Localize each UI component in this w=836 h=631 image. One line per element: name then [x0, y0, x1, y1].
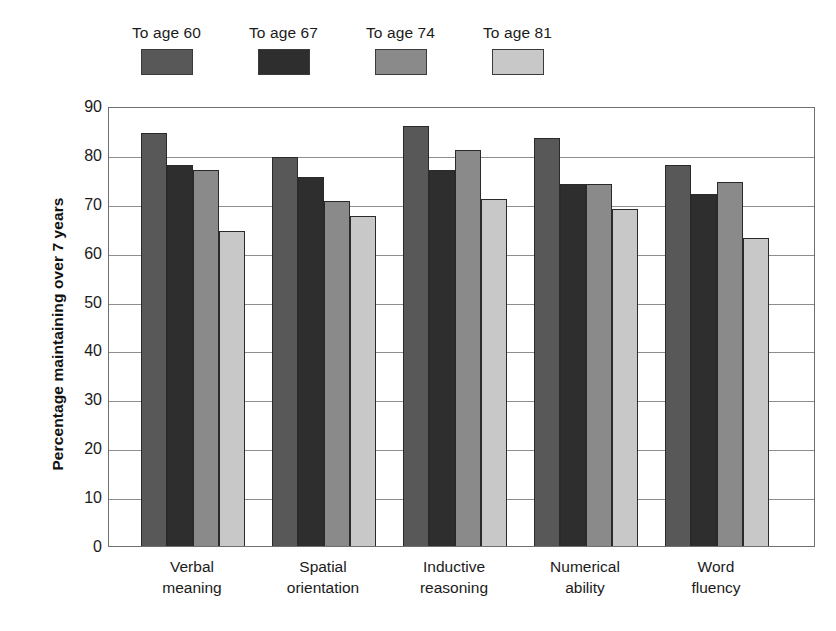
- legend-swatch-to-age-81: [492, 49, 544, 75]
- legend-item-to-age-81: To age 81: [459, 24, 576, 75]
- y-tick-label: 0: [93, 538, 102, 556]
- bar[interactable]: [167, 165, 193, 546]
- legend-label: To age 67: [249, 24, 318, 42]
- bar[interactable]: [141, 133, 167, 546]
- x-tick-label: Numericalability: [550, 556, 620, 598]
- legend-label: To age 60: [132, 24, 201, 42]
- legend-swatch-to-age-67: [258, 49, 310, 75]
- bar[interactable]: [534, 138, 560, 546]
- y-axis-tick-labels: 9080706050403020100: [60, 107, 102, 547]
- legend-item-to-age-67: To age 67: [225, 24, 342, 75]
- legend-item-to-age-60: To age 60: [108, 24, 225, 75]
- bar[interactable]: [429, 170, 455, 546]
- bar[interactable]: [612, 209, 638, 546]
- plot-area: [108, 107, 815, 547]
- bar[interactable]: [193, 170, 219, 546]
- bar[interactable]: [665, 165, 691, 546]
- bar[interactable]: [560, 184, 586, 546]
- y-tick-label: 90: [84, 98, 102, 116]
- bar-group: [272, 108, 376, 546]
- bar[interactable]: [324, 201, 350, 546]
- legend-label: To age 74: [366, 24, 435, 42]
- x-axis-category-labels: VerbalmeaningSpatialorientationInductive…: [108, 556, 815, 616]
- bar[interactable]: [455, 150, 481, 546]
- bar[interactable]: [403, 126, 429, 546]
- x-tick-label: Wordfluency: [691, 556, 740, 598]
- y-tick-label: 50: [84, 294, 102, 312]
- bar[interactable]: [743, 238, 769, 546]
- bar[interactable]: [586, 184, 612, 546]
- bar[interactable]: [717, 182, 743, 546]
- bar-group: [141, 108, 245, 546]
- x-tick-label: Spatialorientation: [287, 556, 359, 598]
- y-tick-label: 40: [84, 342, 102, 360]
- bar[interactable]: [298, 177, 324, 546]
- bar[interactable]: [219, 231, 245, 546]
- bar[interactable]: [481, 199, 507, 546]
- y-tick-label: 70: [84, 196, 102, 214]
- legend-swatch-to-age-74: [375, 49, 427, 75]
- legend-item-to-age-74: To age 74: [342, 24, 459, 75]
- bar-groups: [109, 108, 814, 546]
- y-tick-label: 60: [84, 245, 102, 263]
- bar-group: [403, 108, 507, 546]
- bar[interactable]: [272, 157, 298, 546]
- chart-legend: To age 60 To age 67 To age 74 To age 81: [108, 24, 578, 86]
- y-tick-label: 30: [84, 391, 102, 409]
- bar-group: [665, 108, 769, 546]
- legend-label: To age 81: [483, 24, 552, 42]
- bar-group: [534, 108, 638, 546]
- legend-swatch-to-age-60: [141, 49, 193, 75]
- bar-chart-figure: To age 60 To age 67 To age 74 To age 81 …: [0, 0, 836, 631]
- x-tick-label: Inductivereasoning: [420, 556, 488, 598]
- x-tick-label: Verbalmeaning: [162, 556, 221, 598]
- bar[interactable]: [350, 216, 376, 546]
- y-tick-label: 20: [84, 440, 102, 458]
- bar[interactable]: [691, 194, 717, 546]
- y-tick-label: 80: [84, 147, 102, 165]
- y-tick-label: 10: [84, 489, 102, 507]
